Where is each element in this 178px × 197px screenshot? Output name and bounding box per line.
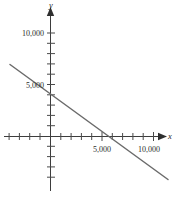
x-tick-label-5000: 5,000 — [93, 145, 111, 154]
x-tick-label-10000: 10,000 — [138, 145, 160, 154]
y-axis-label: y — [48, 0, 53, 10]
x-axis-label: x — [167, 131, 172, 141]
y-tick-label-10000: 10,000 — [22, 29, 44, 38]
y-tick-label-5000: 5,000 — [26, 81, 44, 90]
plot-labels-layer: 10,000 5,000 5,000 10,000 x y — [0, 0, 178, 197]
coordinate-graph-figure: 10,000 5,000 5,000 10,000 x y — [0, 0, 178, 197]
